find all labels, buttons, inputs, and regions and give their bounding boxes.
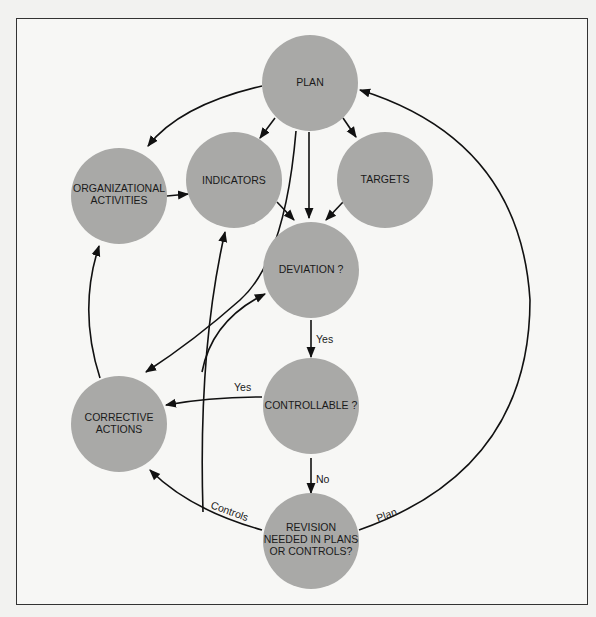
edge-org-to-indicators [167, 194, 188, 196]
node-plan: PLAN [262, 35, 358, 131]
node-org-label-2: ACTIVITIES [90, 194, 147, 206]
control-process-diagram: Yes Yes No Controls Plan PLAN ORGANIZATI… [0, 0, 596, 617]
node-indicators: INDICATORS [186, 132, 282, 228]
node-revision-label-1: REVISION [286, 521, 336, 533]
edge-plan-to-indicators [260, 118, 275, 138]
edge-plan-to-targets [343, 118, 356, 137]
node-revision-label-3: OR CONTROLS? [270, 545, 353, 557]
label-controllable-no: No [316, 473, 330, 485]
label-plan: Plan [375, 505, 399, 524]
node-controllable: CONTROLLABLE ? [263, 358, 359, 454]
node-targets: TARGETS [337, 132, 433, 228]
node-revision-label-2: NEEDED IN PLANS [264, 533, 359, 545]
node-corrective-label-1: CORRECTIVE [85, 411, 154, 423]
edge-targets-to-deviation [326, 202, 343, 220]
node-org-label-1: ORGANIZATIONAL [73, 182, 165, 194]
edge-controls-to-indicators [202, 232, 225, 512]
node-plan-label: PLAN [296, 76, 323, 88]
label-controllable-yes: Yes [234, 381, 251, 393]
edge-corrective-to-org [89, 246, 100, 378]
node-controllable-label: CONTROLLABLE ? [265, 399, 358, 411]
node-revision: REVISION NEEDED IN PLANS OR CONTROLS? [263, 493, 359, 589]
node-deviation-label: DEVIATION ? [279, 263, 344, 275]
node-organizational-activities: ORGANIZATIONAL ACTIVITIES [71, 148, 167, 244]
node-corrective-actions: CORRECTIVE ACTIONS [71, 376, 167, 472]
node-deviation: DEVIATION ? [263, 222, 359, 318]
label-deviation-yes: Yes [316, 333, 333, 345]
edge-controllable-to-corrective [166, 397, 262, 405]
node-indicators-label: INDICATORS [202, 174, 266, 186]
node-corrective-label-2: ACTIONS [96, 423, 143, 435]
node-targets-label: TARGETS [361, 173, 410, 185]
